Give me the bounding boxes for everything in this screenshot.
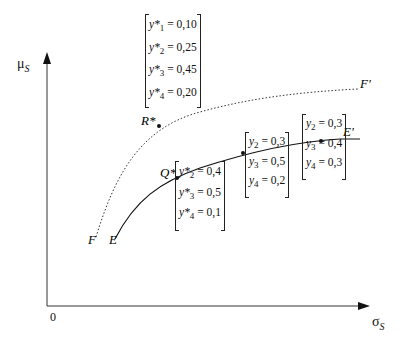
matrix-q-weights: y*2 = 0,4 y*3 = 0,5 y*4 = 0,1: [175, 161, 225, 231]
label-e: E: [109, 232, 117, 248]
label-q-star: Q*: [160, 165, 176, 181]
matrix-row: y*4 = 0,20: [149, 87, 197, 99]
matrix-r-weights: y*1 = 0,10 y*2 = 0,25 y*3 = 0,45 y*4 = 0…: [145, 14, 201, 108]
x-axis-arrow-icon: [358, 302, 370, 310]
matrix-row: y3 = 0,4: [306, 138, 342, 150]
y-axis-arrow-icon: [43, 52, 51, 64]
y-axis-label: μS: [17, 56, 30, 74]
matrix-row: y3 = 0,5: [249, 156, 285, 168]
x-axis-label: σS: [372, 314, 385, 332]
label-f-prime: F': [360, 76, 371, 92]
efficient-frontier-diagram: μS σS 0 F E F' E' R* Q* y*1 = 0,10 y*2 =…: [0, 0, 404, 351]
matrix-row: y*3 = 0,45: [149, 64, 197, 76]
label-f: F: [88, 232, 96, 248]
matrix-row: y2 = 0,3: [249, 136, 285, 148]
matrix-row: y*4 = 0,1: [179, 207, 221, 219]
matrix-row: y*2 = 0,25: [149, 42, 197, 54]
matrix-row: y4 = 0,3: [306, 157, 342, 169]
point-r: [157, 124, 161, 128]
matrix-row: y*3 = 0,5: [179, 187, 221, 199]
matrix-row: y*1 = 0,10: [149, 19, 197, 31]
matrix-mid-weights: y2 = 0,3 y3 = 0,5 y4 = 0,2: [245, 132, 289, 198]
matrix-row: y4 = 0,2: [249, 175, 285, 187]
matrix-row: y*2 = 0,4: [179, 166, 221, 178]
origin-label: 0: [50, 310, 56, 325]
matrix-row: y2 = 0,3: [306, 118, 342, 130]
matrix-right-weights: y2 = 0,3 y3 = 0,4 y4 = 0,3: [302, 114, 346, 180]
label-r-star: R*: [141, 113, 155, 129]
